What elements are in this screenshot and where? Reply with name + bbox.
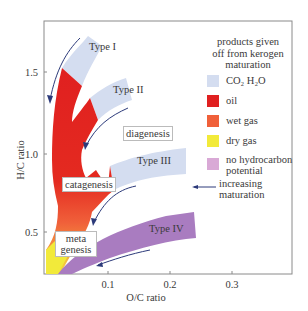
legend-item-oil: oil	[207, 95, 237, 107]
x-axis-label: O/C ratio	[126, 292, 165, 303]
x-tick-0-3: 0.3	[225, 279, 238, 290]
catagenesis-label: catagenesis	[62, 177, 116, 192]
diagenesis-label: diagenesis	[123, 126, 173, 141]
x-tick-0-2: 0.2	[163, 279, 176, 290]
metagenesis-line-1: meta	[58, 233, 94, 244]
arrowhead-type-i	[47, 95, 53, 104]
legend-item-wet-gas: wet gas	[207, 115, 258, 127]
y-tick-1-0: 1.0	[25, 149, 38, 160]
legend-swatch-wet-gas	[207, 115, 219, 127]
arrowhead-type-ii	[83, 142, 89, 150]
type-i-label: Type I	[89, 41, 116, 52]
legend-swatch-dry-gas	[207, 135, 219, 147]
arrowhead-type-iii	[91, 218, 97, 226]
metagenesis-line-2: genesis	[58, 244, 94, 255]
legend-swatch-oil	[207, 95, 219, 107]
metagenesis-label: meta genesis	[55, 231, 97, 257]
x-tick-0-1: 0.1	[101, 279, 114, 290]
type-iv-label: Type IV	[149, 223, 184, 234]
legend-item-dry-gas: dry gas	[207, 135, 257, 147]
legend-title: products given off from kerogen maturati…	[203, 36, 293, 71]
legend-arrow-label: increasing maturation	[219, 178, 265, 200]
type-iii-label: Type III	[137, 155, 171, 166]
legend-swatch-no-hydrocarbon	[207, 158, 219, 170]
y-tick-0-5: 0.5	[25, 227, 38, 238]
type-ii-label: Type II	[113, 84, 144, 95]
legend-item-no-hydrocarbon: no hydrocarbon potential	[207, 154, 292, 176]
y-axis-label: H/C ratio	[15, 140, 26, 179]
legend-item-co2-h2o: CO₂ H₂O	[207, 75, 266, 87]
legend-arrowhead	[192, 185, 198, 189]
y-tick-1-5: 1.5	[25, 67, 38, 78]
legend-swatch-co2-h2o	[207, 75, 219, 87]
